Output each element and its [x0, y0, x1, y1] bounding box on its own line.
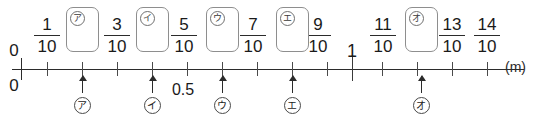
- axis-tick-0: [21, 58, 22, 80]
- number-line-axis: [12, 69, 524, 70]
- axis-tick-7-10: [257, 62, 258, 76]
- fraction-denominator: 10: [95, 36, 139, 57]
- fraction-numerator: 14: [465, 15, 509, 35]
- answer-box-tag-i: イ: [140, 11, 155, 26]
- unit-label: (m): [505, 60, 526, 74]
- axis-tick-1-10: [47, 62, 48, 76]
- pointer-u: ウ: [210, 76, 234, 114]
- whole-number-label-1: 1: [347, 42, 357, 60]
- arrow-up-icon: [152, 76, 153, 93]
- axis-tick-5-10: [187, 62, 188, 76]
- pointer-tag-o: オ: [413, 97, 430, 114]
- origin-label-top: 0: [9, 42, 18, 59]
- axis-tick-14-10: [487, 62, 488, 76]
- answer-box-tag-o: オ: [409, 11, 424, 26]
- axis-tick-4-10: [152, 62, 153, 76]
- axis-tick-12-10: [417, 62, 418, 76]
- pointer-o: オ: [409, 76, 433, 114]
- pointer-tag-i: イ: [144, 97, 161, 114]
- fraction-denominator: 10: [25, 36, 69, 57]
- fraction-label-3-10: 3 10: [95, 15, 139, 57]
- arrow-up-icon: [82, 76, 83, 93]
- pointer-e: エ: [280, 76, 304, 114]
- fraction-denominator: 10: [465, 36, 509, 57]
- origin-label-bottom: 0: [9, 77, 18, 94]
- axis-tick-13-10: [452, 62, 453, 76]
- arrow-up-icon: [292, 76, 293, 93]
- pointer-tag-u: ウ: [214, 97, 231, 114]
- pointer-a: ア: [70, 76, 94, 114]
- answer-box-tag-u: ウ: [210, 11, 225, 26]
- axis-tick-8-10: [292, 62, 293, 76]
- number-line-figure: 0 0 1 10 3 10 5 10 7 10 9 10 11 10 13 10…: [0, 0, 535, 117]
- axis-tick-6-10: [222, 62, 223, 76]
- answer-box-i[interactable]: イ: [136, 7, 169, 52]
- answer-box-tag-a: ア: [70, 11, 85, 26]
- answer-box-a[interactable]: ア: [66, 7, 99, 52]
- pointer-tag-a: ア: [74, 97, 91, 114]
- pointer-tag-e: エ: [284, 97, 301, 114]
- fraction-denominator: 10: [361, 36, 405, 57]
- fraction-numerator: 1: [25, 15, 69, 35]
- answer-box-o[interactable]: オ: [405, 7, 438, 52]
- arrow-up-icon: [222, 76, 223, 93]
- pointer-i: イ: [140, 76, 164, 114]
- axis-tick-11-10: [382, 62, 383, 76]
- axis-tick-3-10: [117, 62, 118, 76]
- axis-tick-9-10: [327, 62, 328, 76]
- arrow-up-icon: [421, 76, 422, 93]
- decimal-label-0-5: 0.5: [172, 82, 194, 98]
- answer-box-tag-e: エ: [280, 11, 295, 26]
- fraction-numerator: 11: [361, 15, 405, 35]
- axis-tick-2-10: [82, 62, 83, 76]
- fraction-label-11-10: 11 10: [361, 15, 405, 57]
- answer-box-e[interactable]: エ: [276, 7, 309, 52]
- answer-box-u[interactable]: ウ: [206, 7, 239, 52]
- fraction-numerator: 3: [95, 15, 139, 35]
- fraction-label-1-10: 1 10: [25, 15, 69, 57]
- fraction-label-14-10: 14 10: [465, 15, 509, 57]
